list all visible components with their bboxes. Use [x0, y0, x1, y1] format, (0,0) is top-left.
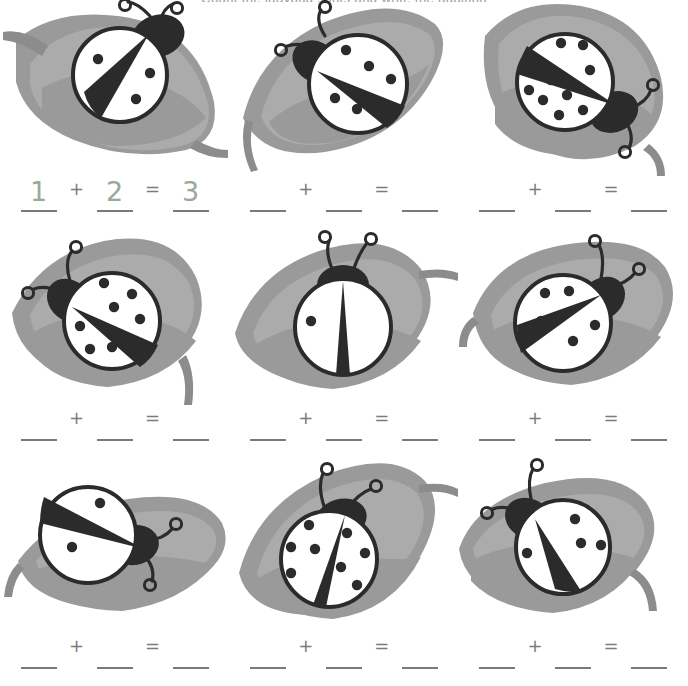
- answer-rule: [97, 210, 133, 212]
- addend-a-slot-6[interactable]: [476, 405, 518, 445]
- problem-cell-8: + =: [229, 457, 458, 686]
- equals-operator-6: =: [600, 398, 622, 438]
- answer-rule: [97, 667, 133, 669]
- answer-rule: [479, 210, 515, 212]
- spot: [95, 498, 105, 508]
- equation-3: + =: [459, 176, 688, 228]
- ladybug-illustration-8: [229, 457, 458, 633]
- spot: [145, 68, 155, 78]
- spot: [107, 341, 117, 351]
- spot: [553, 110, 563, 120]
- answer-rule: [555, 439, 591, 441]
- plus-operator-1: +: [66, 169, 88, 209]
- spot: [386, 74, 396, 84]
- result-slot-8[interactable]: [399, 633, 441, 673]
- answer-rule: [402, 667, 438, 669]
- equals-operator-8: =: [371, 626, 393, 666]
- ladybug-illustration-2: [229, 0, 458, 176]
- equation-5: + =: [229, 405, 458, 457]
- equals-operator-4: =: [142, 398, 164, 438]
- equals-operator-5: =: [371, 398, 393, 438]
- plus-operator-4: +: [66, 398, 88, 438]
- spot: [523, 65, 533, 75]
- problem-cell-3: + =: [459, 0, 688, 229]
- worksheet-page: Count the ladybug spots and write the ad…: [0, 0, 688, 686]
- result-value-1: 3: [182, 178, 199, 205]
- spot: [523, 85, 533, 95]
- spot: [563, 285, 573, 295]
- spot: [555, 38, 565, 48]
- answer-rule: [555, 667, 591, 669]
- spot: [539, 287, 549, 297]
- addend-b-slot-5[interactable]: [323, 405, 365, 445]
- ladybug-illustration-6: [459, 229, 688, 405]
- answer-rule: [631, 210, 667, 212]
- plus-operator-9: +: [524, 626, 546, 666]
- result-slot-9[interactable]: [628, 633, 670, 673]
- spot: [109, 301, 119, 311]
- spot: [310, 544, 320, 554]
- equation-6: + =: [459, 405, 688, 457]
- addend-a-slot-5[interactable]: [247, 405, 289, 445]
- addend-a-slot-7[interactable]: [18, 633, 60, 673]
- addend-a-slot-3[interactable]: [476, 176, 518, 216]
- result-slot-1[interactable]: 3: [170, 176, 212, 216]
- result-slot-6[interactable]: [628, 405, 670, 445]
- ladybug-illustration-5: [229, 229, 458, 405]
- answer-rule: [326, 667, 362, 669]
- ladybug-illustration-7: [0, 457, 229, 633]
- spot: [67, 542, 77, 552]
- addend-a-slot-8[interactable]: [247, 633, 289, 673]
- problem-cell-2: + =: [229, 0, 458, 229]
- problem-cell-9: + =: [459, 457, 688, 686]
- result-slot-7[interactable]: [170, 633, 212, 673]
- plus-operator-3: +: [524, 169, 546, 209]
- equals-operator-3: =: [600, 169, 622, 209]
- result-slot-4[interactable]: [170, 405, 212, 445]
- plus-operator-5: +: [295, 398, 317, 438]
- addend-b-slot-4[interactable]: [94, 405, 136, 445]
- addend-a-slot-9[interactable]: [476, 633, 518, 673]
- ladybug-illustration-9: [459, 457, 688, 633]
- addend-b-slot-7[interactable]: [94, 633, 136, 673]
- addend-a-slot-1[interactable]: 1: [18, 176, 60, 216]
- answer-rule: [173, 439, 209, 441]
- spot: [569, 514, 579, 524]
- answer-rule: [555, 210, 591, 212]
- spot: [567, 335, 577, 345]
- spot: [131, 94, 141, 104]
- addend-b-slot-9[interactable]: [552, 633, 594, 673]
- result-slot-3[interactable]: [628, 176, 670, 216]
- spot: [342, 528, 352, 538]
- spot: [135, 313, 145, 323]
- spot: [577, 105, 587, 115]
- spot: [85, 343, 95, 353]
- addend-b-slot-1[interactable]: 2: [94, 176, 136, 216]
- ladybug-illustration-4: [0, 229, 229, 405]
- addend-a-slot-4[interactable]: [18, 405, 60, 445]
- result-slot-5[interactable]: [399, 405, 441, 445]
- equation-7: + =: [0, 633, 229, 685]
- spot: [99, 277, 109, 287]
- addend-a-slot-2[interactable]: [247, 176, 289, 216]
- answer-rule: [631, 667, 667, 669]
- equals-operator-9: =: [600, 626, 622, 666]
- answer-rule: [173, 667, 209, 669]
- addend-b-slot-6[interactable]: [552, 405, 594, 445]
- addend-b-slot-3[interactable]: [552, 176, 594, 216]
- addend-b-slot-8[interactable]: [323, 633, 365, 673]
- spot: [545, 75, 555, 85]
- ladybug-illustration-1: [0, 0, 229, 176]
- spot: [75, 320, 85, 330]
- answer-rule: [21, 439, 57, 441]
- addend-b-slot-2[interactable]: [323, 176, 365, 216]
- equals-operator-1: =: [142, 169, 164, 209]
- result-slot-2[interactable]: [399, 176, 441, 216]
- spot: [577, 40, 587, 50]
- problem-grid: 1 + 2 = 3: [0, 0, 688, 686]
- answer-rule: [631, 439, 667, 441]
- plus-operator-8: +: [295, 626, 317, 666]
- spot: [360, 548, 370, 558]
- addend-a-value-1: 1: [30, 178, 47, 205]
- answer-rule: [479, 667, 515, 669]
